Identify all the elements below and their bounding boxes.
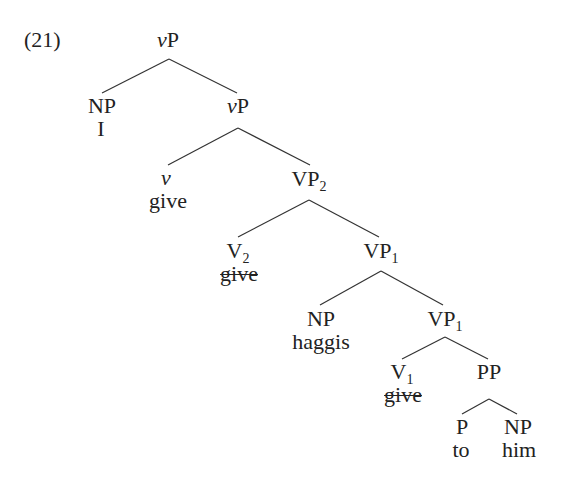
word-to: to [452,439,469,461]
node-VP1-upper: VP1 [363,240,398,270]
word-give-struck-V2: give [220,263,258,285]
node-P: P [456,416,468,438]
word-give-struck-V1: give [384,384,422,406]
node-VP2: VP2 [291,168,326,198]
word-I: I [97,118,104,140]
example-number: (21) [24,29,61,51]
word-him: him [502,439,536,461]
node-np-subject: NP [88,95,116,117]
syntax-tree-diagram: (21) vP NP I vP v give VP2 V2 give VP1 N… [0,0,567,500]
node-np-object: NP [307,308,335,330]
node-np-pp: NP [504,416,532,438]
tree-branches [0,0,567,500]
node-vP-intermediate: vP [227,95,249,117]
word-haggis: haggis [292,331,349,353]
word-give: give [149,190,187,212]
node-VP1-lower: VP1 [427,308,462,338]
node-PP: PP [477,361,501,383]
node-root-vP: vP [157,29,179,51]
node-v-head: v [161,167,171,189]
